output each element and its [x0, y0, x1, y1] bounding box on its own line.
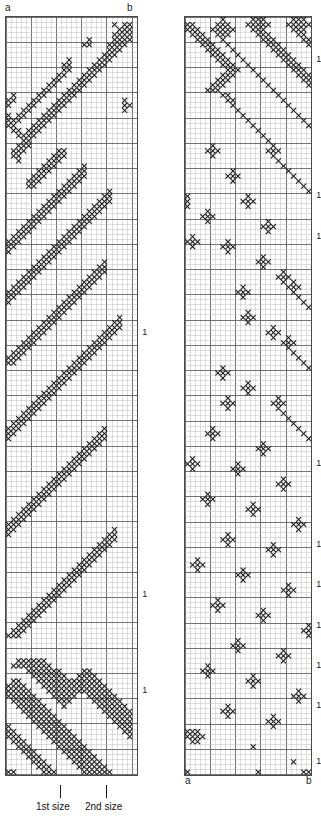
left-panel-row-marker-3: 1	[142, 686, 147, 695]
left-panel-gridlines	[6, 17, 137, 775]
left-panel-corner-label-a: a	[5, 3, 11, 13]
left-panel-row-marker-2: 1	[142, 590, 147, 599]
right-panel-corner-label-b: b	[306, 776, 312, 786]
size-tick-2nd	[106, 785, 107, 798]
right-panel-row-marker-6: 1	[316, 580, 321, 589]
left-panel-corner-label-b: b	[127, 3, 133, 13]
right-panel-row-marker-3: 1	[316, 232, 321, 241]
left-panel-row-marker-1: 1	[142, 328, 147, 337]
right-panel-row-marker-2: 1	[316, 191, 321, 200]
size-tick-1st	[60, 785, 61, 798]
right-panel-row-marker-8: 1	[316, 661, 321, 670]
right-panel-row-marker-9: 1	[316, 701, 321, 710]
right-panel-corner-label-a: a	[185, 776, 191, 786]
right-chart-panel[interactable]	[184, 16, 312, 776]
right-panel-gridlines	[185, 17, 311, 775]
right-panel-row-marker-1: 1	[316, 55, 321, 64]
right-panel-row-marker-10: 1	[316, 757, 321, 766]
right-panel-row-marker-4: 1	[316, 459, 321, 468]
right-panel-row-marker-5: 1	[316, 540, 321, 549]
left-chart-panel[interactable]	[5, 16, 138, 776]
lace-pricking-chart: a b 111 1111111111 a b 1st size 2nd size	[0, 0, 321, 821]
size-label-2nd: 2nd size	[85, 801, 122, 812]
size-label-1st: 1st size	[36, 801, 70, 812]
right-panel-row-marker-7: 1	[316, 621, 321, 630]
